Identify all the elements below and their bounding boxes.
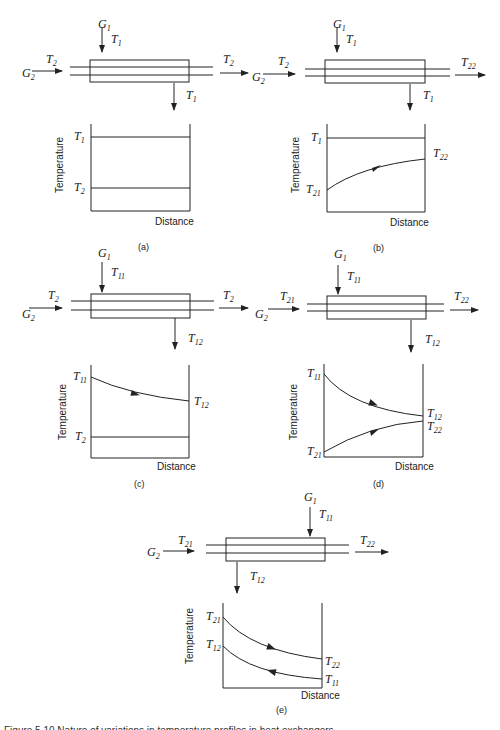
- exchanger-shell: [226, 538, 325, 561]
- panel-a: G1 T1 G2 T2 T2 T1 T1 T2 Temperature Dist…: [22, 17, 248, 252]
- profile-curve-t2: [327, 159, 425, 190]
- stream2-inlet-temp: T21: [178, 533, 193, 549]
- graph-left-label: T21: [206, 609, 221, 625]
- stream1-outlet-temp: T12: [425, 332, 440, 348]
- x-axis-label: Distance: [301, 690, 340, 701]
- x-axis-label: Distance: [390, 217, 429, 228]
- profile-curve-t2: [324, 421, 423, 452]
- stream1-label: G1: [333, 17, 346, 33]
- graph-left-label: T11: [73, 369, 87, 385]
- x-axis-label: Distance: [155, 216, 194, 227]
- stream1-outlet-temp: T1: [423, 88, 434, 104]
- temperature-graph-a: T1 T2 Temperature Distance (a): [54, 124, 194, 252]
- profile-curve-t1: [91, 377, 189, 401]
- figure-caption: Figure 5.10 Nature of variations in temp…: [4, 725, 496, 730]
- stream1-outlet-temp: T12: [188, 331, 203, 347]
- stream1-inlet-temp: T11: [111, 265, 125, 281]
- exchanger-schematic-e: G1 T11 G2 T21 T22 T12: [147, 490, 388, 593]
- panel-label: (d): [373, 479, 384, 489]
- panel-d: G1 T11 G2 T21 T22 T12 T11 T21 T12 T22 Te…: [255, 247, 478, 489]
- exchanger-schematic-c: G1 T11 G2 T2 T2 T12: [22, 246, 248, 349]
- temperature-graph-d: T11 T21 T12 T22 Temperature Distance (d): [288, 364, 442, 489]
- stream1-inlet-temp: T11: [347, 269, 361, 285]
- stream1-inlet-temp: T11: [319, 507, 333, 523]
- stream1-label: G1: [98, 17, 111, 33]
- temperature-graph-e: T21 T12 T22 T11 Temperature Distance (e): [184, 603, 340, 715]
- stream2-outlet-temp: T22: [461, 55, 476, 71]
- graph-right-label: T22: [433, 146, 448, 162]
- stream2-outlet-temp: T2: [223, 52, 234, 68]
- stream1-outlet-temp: T1: [186, 88, 197, 104]
- y-axis-label: Temperature: [54, 136, 65, 193]
- stream2-label: G2: [22, 307, 35, 323]
- y-axis-label: Temperature: [184, 607, 195, 664]
- graph-left-label: T21: [306, 182, 321, 198]
- graph-left-label: T21: [307, 444, 322, 460]
- stream2-label: G2: [22, 66, 35, 82]
- flow-direction-arrow-icon: [130, 390, 140, 398]
- stream2-outlet-temp: T2: [223, 288, 234, 304]
- exchanger-shell: [90, 60, 189, 82]
- panel-c: G1 T11 G2 T2 T2 T12 T11 T2 T12 Temperatu…: [22, 246, 248, 489]
- exchanger-schematic-b: G1 T1 G2 T2 T22 T1: [252, 17, 485, 110]
- panel-label: (b): [373, 243, 384, 253]
- graph-axes: [223, 603, 322, 688]
- panel-e: G1 T11 G2 T21 T22 T12 T21 T12 T22 T11 Te…: [147, 490, 388, 715]
- panel-label: (c): [134, 479, 145, 489]
- stream2-label: G2: [252, 70, 265, 86]
- stream1-label: G1: [334, 247, 347, 263]
- stream1-label: G1: [98, 246, 111, 262]
- exchanger-shell: [325, 60, 425, 83]
- flow-direction-arrow-icon: [370, 429, 379, 436]
- heat-exchanger-figure: G1 T1 G2 T2 T2 T1 T1 T2 Temperature Dist…: [0, 0, 500, 730]
- exchanger-schematic-a: G1 T1 G2 T2 T2 T1: [22, 17, 248, 110]
- stream2-inlet-temp: T2: [46, 52, 57, 68]
- graph-right-label: T11: [325, 672, 339, 688]
- graph-left-label: T2: [75, 429, 86, 445]
- stream2-outlet-temp: T22: [360, 533, 375, 549]
- graph-left-label: T1: [311, 130, 322, 146]
- stream2-label: G2: [255, 307, 268, 323]
- stream1-inlet-temp: T1: [111, 32, 122, 48]
- exchanger-shell: [91, 294, 190, 318]
- y-axis-label: Temperature: [290, 136, 301, 193]
- profile-curve-t2: [223, 617, 322, 659]
- stream1-label: G1: [304, 490, 317, 506]
- exchanger-schematic-d: G1 T11 G2 T21 T22 T12: [255, 247, 478, 352]
- profile-curve-t1: [324, 374, 423, 416]
- stream2-inlet-temp: T2: [48, 288, 59, 304]
- x-axis-label: Distance: [157, 461, 196, 472]
- y-axis-label: Temperature: [57, 383, 68, 440]
- panel-b: G1 T1 G2 T2 T22 T1 T1 T21 T22 Temperatur…: [252, 17, 485, 253]
- stream1-inlet-temp: T1: [346, 32, 357, 48]
- graph-right-label: T22: [325, 654, 340, 670]
- stream2-inlet-temp: T21: [280, 289, 295, 305]
- stream1-outlet-temp: T12: [250, 569, 265, 585]
- graph-axes: [324, 364, 423, 457]
- graph-right-label: T12: [194, 394, 209, 410]
- panel-label: (e): [276, 705, 287, 715]
- stream2-label: G2: [147, 545, 160, 561]
- x-axis-label: Distance: [395, 461, 434, 472]
- flow-direction-arrow-icon: [266, 643, 277, 652]
- graph-left-label: T11: [307, 366, 321, 382]
- flow-direction-arrow-icon: [372, 165, 381, 172]
- temperature-graph-b: T1 T21 T22 Temperature Distance (b): [290, 124, 448, 253]
- graph-left-label: T1: [74, 129, 85, 145]
- temperature-graph-c: T11 T2 T12 Temperature Distance (c): [57, 365, 209, 489]
- graph-axes: [91, 365, 189, 458]
- y-axis-label: Temperature: [288, 383, 299, 440]
- graph-left-label: T12: [206, 637, 221, 653]
- graph-left-label: T2: [74, 180, 85, 196]
- stream2-inlet-temp: T2: [278, 54, 289, 70]
- exchanger-shell: [327, 296, 426, 319]
- flow-direction-arrow-icon: [266, 667, 276, 676]
- stream2-outlet-temp: T22: [454, 289, 469, 305]
- panel-label: (a): [138, 242, 149, 252]
